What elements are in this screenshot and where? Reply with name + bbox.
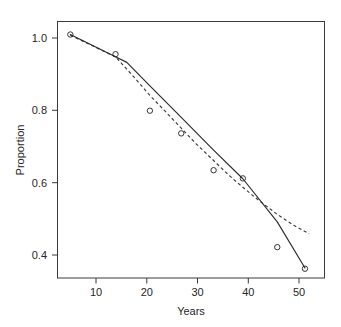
solid-fit-line xyxy=(70,35,305,268)
data-point xyxy=(302,266,307,271)
x-tick-label-50: 50 xyxy=(293,286,305,298)
y-tick-label-1.0: 1.0 xyxy=(32,32,47,44)
data-point xyxy=(179,131,184,136)
chart-figure: 10 20 30 40 50 1.0 0.8 0.6 0.4 Years Pro… xyxy=(0,0,341,327)
data-point xyxy=(275,244,280,249)
data-point-markers xyxy=(68,32,308,272)
data-point xyxy=(211,168,216,173)
y-tick-label-0.6: 0.6 xyxy=(32,177,47,189)
x-tick-label-20: 20 xyxy=(141,286,153,298)
y-tick-labels: 1.0 0.8 0.6 0.4 xyxy=(32,32,47,261)
data-point xyxy=(147,108,152,113)
scatter-plot-svg: 10 20 30 40 50 1.0 0.8 0.6 0.4 Years Pro… xyxy=(0,0,341,327)
y-axis-ticks xyxy=(52,38,58,255)
x-tick-label-40: 40 xyxy=(242,286,254,298)
dashed-fit-line xyxy=(70,35,309,234)
x-tick-labels: 10 20 30 40 50 xyxy=(90,286,305,298)
dashed-fit xyxy=(70,35,309,234)
plot-frame xyxy=(58,22,325,279)
y-tick-label-0.8: 0.8 xyxy=(32,104,47,116)
x-tick-label-30: 30 xyxy=(191,286,203,298)
x-axis-ticks xyxy=(96,278,299,284)
y-axis-title: Proportion xyxy=(14,125,26,176)
x-axis-title: Years xyxy=(177,305,205,317)
solid-fit xyxy=(70,35,305,268)
y-tick-label-0.4: 0.4 xyxy=(32,249,47,261)
x-tick-label-10: 10 xyxy=(90,286,102,298)
data-point xyxy=(113,52,118,57)
